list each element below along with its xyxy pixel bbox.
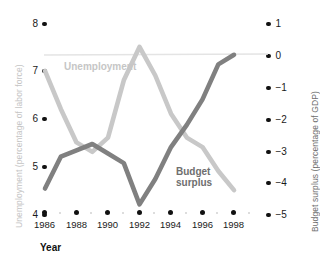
x-axis-label-1998: 1998 xyxy=(223,219,243,230)
x-axis-label-1992: 1992 xyxy=(129,219,149,230)
x-axis-label-1986: 1986 xyxy=(34,219,54,230)
x-axis-minor-dot xyxy=(122,212,124,214)
series-label-unemployment: Unemployment xyxy=(64,61,136,72)
series-label-budget-line2: surplus xyxy=(176,177,230,188)
chart-container: Unemployment (percentage of labor force)… xyxy=(0,0,320,262)
x-axis-dot-1994 xyxy=(168,210,173,215)
x-axis-dot-1990 xyxy=(105,210,110,215)
x-axis-dot-1988 xyxy=(74,210,79,215)
x-axis-minor-dot xyxy=(248,212,250,214)
series-label-budget-surplus: Budget surplus xyxy=(176,166,230,188)
x-axis-minor-dot xyxy=(216,212,218,214)
x-axis-dot-1992 xyxy=(137,210,142,215)
x-axis-title: Year xyxy=(40,242,61,253)
x-axis-label-1994: 1994 xyxy=(160,219,180,230)
x-axis-label-1988: 1988 xyxy=(66,219,86,230)
x-axis-dot-1996 xyxy=(200,210,205,215)
series-label-budget-line1: Budget xyxy=(176,166,230,177)
x-axis-minor-dot xyxy=(59,212,61,214)
x-axis-dot-1998 xyxy=(231,210,236,215)
x-axis-minor-dot xyxy=(90,212,92,214)
x-axis-label-1990: 1990 xyxy=(97,219,117,230)
x-axis-dot-1986 xyxy=(42,210,47,215)
x-axis-minor-dot xyxy=(185,212,187,214)
x-axis-label-1996: 1996 xyxy=(192,219,212,230)
x-axis-minor-dot xyxy=(153,212,155,214)
